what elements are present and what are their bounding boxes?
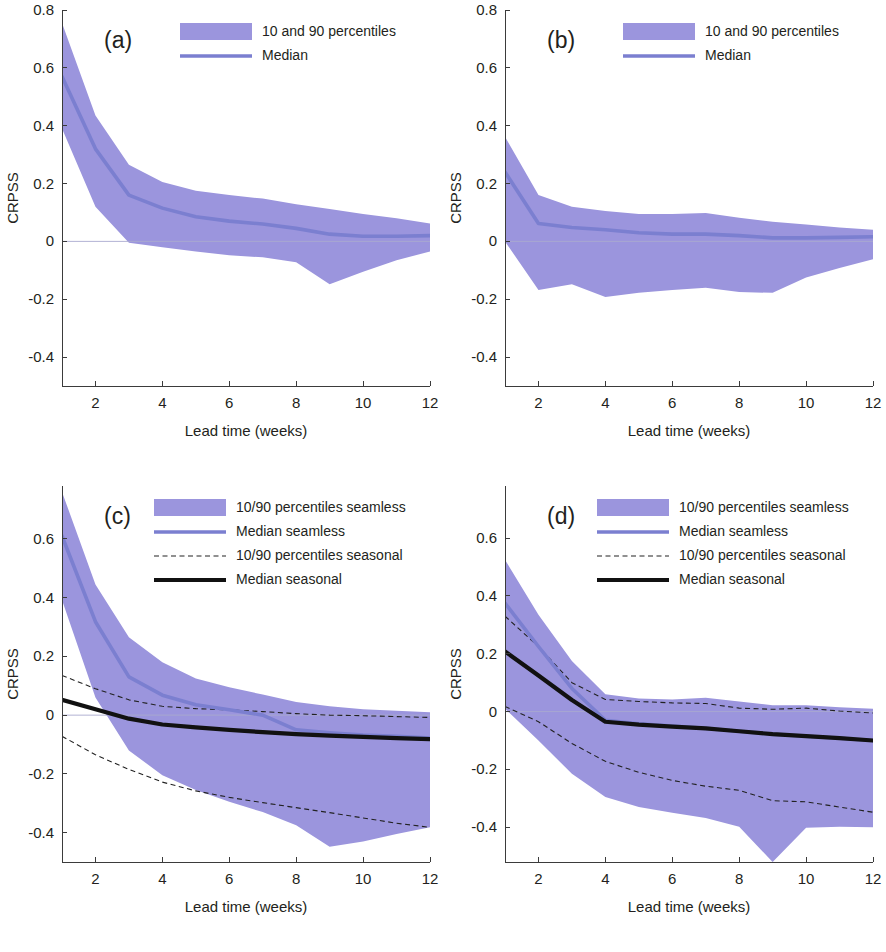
panel-label-b: (b) — [547, 27, 575, 53]
chart-panel-d: -0.4-0.200.20.40.624681012Lead time (wee… — [443, 476, 886, 952]
legend-label: 10/90 percentiles seamless — [236, 499, 406, 515]
x-tick-label: 10 — [355, 870, 372, 887]
legend-c: 10/90 percentiles seamlessMedian seamles… — [154, 499, 406, 587]
legend-b: 10 and 90 percentilesMedian — [623, 23, 839, 63]
y-tick-label: 0.4 — [476, 587, 497, 604]
x-tick-label: 4 — [601, 870, 609, 887]
x-tick-label: 4 — [601, 394, 609, 411]
y-tick-label: -0.2 — [471, 760, 497, 777]
y-axis-label: CRPSS — [4, 648, 21, 700]
x-axis-label: Lead time (weeks) — [628, 422, 751, 439]
y-tick-label: 0.4 — [33, 589, 54, 606]
y-tick-label: 0.2 — [476, 175, 497, 192]
x-tick-label: 12 — [422, 394, 439, 411]
legend-label: Median seasonal — [679, 571, 785, 587]
x-tick-label: 12 — [865, 394, 882, 411]
y-tick-label: 0.2 — [33, 647, 54, 664]
y-tick-label: 0.2 — [33, 175, 54, 192]
y-tick-label: 0.8 — [33, 1, 54, 18]
y-tick-label: 0 — [489, 703, 497, 720]
axis-lines — [505, 10, 873, 386]
x-axis-label: Lead time (weeks) — [185, 422, 308, 439]
panel-svg-b: -0.4-0.200.20.40.60.824681012Lead time (… — [443, 0, 886, 476]
percentile-band — [62, 492, 430, 847]
y-tick-label: -0.4 — [28, 348, 54, 365]
x-tick-label: 6 — [668, 394, 676, 411]
x-axis-label: Lead time (weeks) — [628, 898, 751, 915]
y-tick-label: 0.6 — [476, 59, 497, 76]
y-axis-label: CRPSS — [4, 172, 21, 224]
legend-label: 10 and 90 percentiles — [262, 23, 396, 39]
legend-label: Median seasonal — [236, 571, 342, 587]
y-tick-label: 0.4 — [33, 117, 54, 134]
legend-label: 10/90 percentiles seamless — [679, 499, 849, 515]
y-tick-label: -0.2 — [471, 290, 497, 307]
y-tick-label: -0.2 — [28, 290, 54, 307]
x-tick-label: 8 — [735, 870, 743, 887]
panel-label-a: (a) — [104, 27, 132, 53]
legend-label: Median — [705, 47, 751, 63]
legend-label: 10/90 percentiles seasonal — [679, 547, 846, 563]
y-tick-label: 0.6 — [476, 529, 497, 546]
legend-label: Median seamless — [679, 523, 788, 539]
legend-swatch-band — [154, 499, 226, 516]
x-tick-label: 4 — [158, 394, 166, 411]
x-tick-label: 8 — [292, 394, 300, 411]
x-tick-label: 10 — [798, 394, 815, 411]
y-tick-label: 0.4 — [476, 117, 497, 134]
y-tick-label: 0.6 — [33, 59, 54, 76]
percentile-band — [505, 137, 873, 297]
plot-area-a — [62, 23, 430, 284]
percentile-band — [62, 23, 430, 284]
x-tick-label: 8 — [735, 394, 743, 411]
panel-label-c: (c) — [104, 503, 131, 529]
x-tick-label: 4 — [158, 870, 166, 887]
legend-label: 10 and 90 percentiles — [705, 23, 839, 39]
x-tick-label: 10 — [798, 870, 815, 887]
legend-a: 10 and 90 percentilesMedian — [180, 23, 396, 63]
y-tick-label: 0 — [46, 706, 54, 723]
x-tick-label: 10 — [355, 394, 372, 411]
panel-svg-d: -0.4-0.200.20.40.624681012Lead time (wee… — [443, 476, 886, 952]
plot-area-c — [62, 492, 430, 847]
panel-label-d: (d) — [547, 503, 575, 529]
x-tick-label: 6 — [225, 394, 233, 411]
y-axis-label: CRPSS — [447, 648, 464, 700]
legend-swatch-band — [180, 23, 252, 40]
panel-svg-c: -0.4-0.200.20.40.624681012Lead time (wee… — [0, 476, 443, 952]
y-tick-label: -0.4 — [28, 824, 54, 841]
y-tick-label: -0.4 — [471, 348, 497, 365]
chart-panel-b: -0.4-0.200.20.40.60.824681012Lead time (… — [443, 0, 886, 476]
chart-panel-c: -0.4-0.200.20.40.624681012Lead time (wee… — [0, 476, 443, 952]
y-tick-label: -0.2 — [28, 765, 54, 782]
legend-label: Median seamless — [236, 523, 345, 539]
legend-d: 10/90 percentiles seamlessMedian seamles… — [597, 499, 849, 587]
y-tick-label: 0.2 — [476, 645, 497, 662]
legend-label: Median — [262, 47, 308, 63]
legend-swatch-band — [623, 23, 695, 40]
y-tick-label: 0.6 — [33, 530, 54, 547]
x-tick-label: 6 — [668, 870, 676, 887]
x-tick-label: 2 — [534, 394, 542, 411]
x-tick-label: 2 — [534, 870, 542, 887]
plot-area-d — [505, 560, 873, 862]
x-axis-label: Lead time (weeks) — [185, 898, 308, 915]
percentile-band — [505, 560, 873, 862]
chart-panel-a: -0.4-0.200.20.40.60.824681012Lead time (… — [0, 0, 443, 476]
x-tick-label: 6 — [225, 870, 233, 887]
plot-area-b — [505, 137, 873, 297]
x-tick-label: 2 — [91, 394, 99, 411]
x-tick-label: 12 — [865, 870, 882, 887]
y-tick-label: 0.8 — [476, 1, 497, 18]
figure-root: -0.4-0.200.20.40.60.824681012Lead time (… — [0, 0, 886, 952]
y-tick-label: 0 — [46, 232, 54, 249]
y-axis-label: CRPSS — [447, 172, 464, 224]
legend-label: 10/90 percentiles seasonal — [236, 547, 403, 563]
x-tick-label: 2 — [91, 870, 99, 887]
y-tick-label: -0.4 — [471, 818, 497, 835]
panel-svg-a: -0.4-0.200.20.40.60.824681012Lead time (… — [0, 0, 443, 476]
x-tick-label: 8 — [292, 870, 300, 887]
x-tick-label: 12 — [422, 870, 439, 887]
y-tick-label: 0 — [489, 232, 497, 249]
legend-swatch-band — [597, 499, 669, 516]
